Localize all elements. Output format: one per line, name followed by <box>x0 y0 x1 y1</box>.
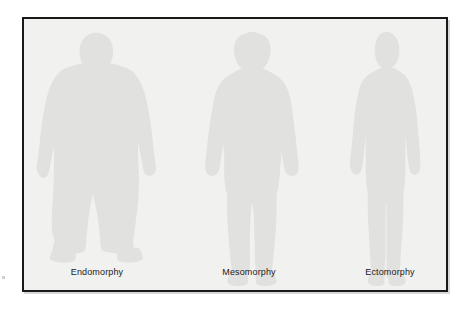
label-ectomorphy: Ectomorphy <box>365 267 415 278</box>
silhouette-mesomorphy <box>205 32 299 286</box>
label-endomorphy: Endomorphy <box>71 267 124 278</box>
frame-shadow-bottom <box>24 292 450 294</box>
frame-shadow-right <box>448 20 450 294</box>
silhouette-ectomorphy <box>350 32 421 286</box>
somatotype-illustration <box>24 19 446 290</box>
somatotype-figure-frame: Endomorphy Mesomorphy Ectomorphy <box>22 17 448 292</box>
page-edge-speck <box>2 276 5 279</box>
silhouette-endomorphy <box>37 33 156 263</box>
label-mesomorphy: Mesomorphy <box>222 267 276 278</box>
